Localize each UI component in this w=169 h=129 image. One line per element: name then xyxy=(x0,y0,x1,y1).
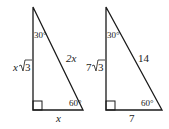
angle-60-label: 60° xyxy=(141,98,154,108)
angle-60-label: 60° xyxy=(69,98,82,108)
triangles-diagram: 30° 60° 2x x x 3 30° 60° 14 7 7 3 xyxy=(0,0,169,129)
triangle-example: 30° 60° 14 7 7 3 xyxy=(86,7,162,124)
triangle-general: 30° 60° 2x x x 3 xyxy=(12,7,83,124)
long-leg-label: 7 3 xyxy=(86,60,105,73)
long-leg-label: x 3 xyxy=(12,60,32,73)
svg-text:3: 3 xyxy=(98,61,104,73)
right-angle-marker xyxy=(106,101,115,110)
svg-text:x: x xyxy=(12,61,18,73)
short-leg-label: x xyxy=(55,112,61,124)
hypotenuse-label: 2x xyxy=(66,52,77,64)
short-leg-label: 7 xyxy=(129,112,135,124)
right-angle-marker xyxy=(33,101,42,110)
svg-text:7: 7 xyxy=(86,61,92,73)
hypotenuse-label: 14 xyxy=(138,52,150,64)
triangle-example-outline xyxy=(106,7,162,110)
angle-30-label: 30° xyxy=(34,30,47,40)
angle-30-label: 30° xyxy=(107,30,120,40)
svg-text:3: 3 xyxy=(25,61,31,73)
